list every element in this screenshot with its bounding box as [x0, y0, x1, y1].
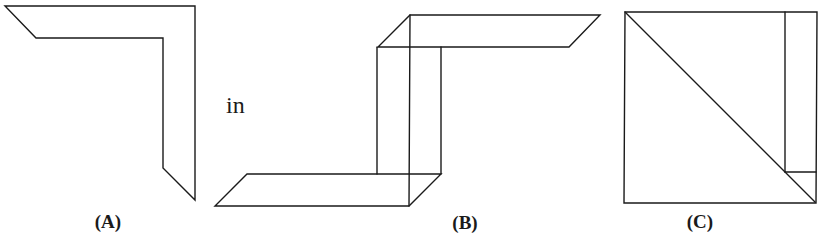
- connector-word: in: [226, 92, 245, 118]
- figure-a-outline: [5, 6, 195, 200]
- diagram-canvas: in (A) (B) (C): [0, 0, 827, 239]
- figure-b-top-section: [378, 15, 600, 47]
- figure-c: [624, 12, 817, 203]
- label-b: (B): [452, 212, 477, 234]
- figure-b: [215, 15, 600, 206]
- figure-b-bottom-section: [215, 174, 441, 206]
- figure-a: [5, 6, 195, 200]
- diagram-svg: in (A) (B) (C): [0, 0, 827, 239]
- label-a: (A): [95, 211, 121, 233]
- figure-c-diagonal: [625, 12, 815, 202]
- label-c: (C): [687, 211, 713, 233]
- figure-b-vertical-back-edge: [409, 15, 410, 206]
